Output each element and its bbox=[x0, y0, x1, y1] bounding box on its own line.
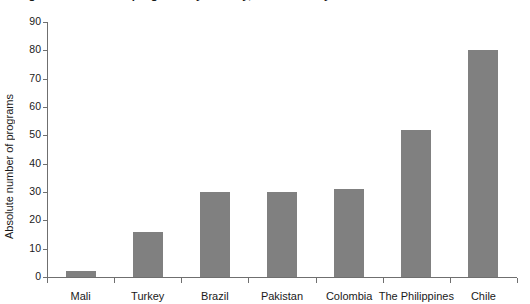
y-tick-label: 80 bbox=[29, 43, 41, 56]
bar-pakistan bbox=[267, 192, 297, 277]
x-axis-line bbox=[47, 277, 517, 278]
bars-layer bbox=[47, 22, 517, 277]
y-axis-title: Absolute number of programs bbox=[2, 72, 18, 262]
x-tick-mark bbox=[114, 278, 115, 283]
x-tick-label-colombia: Colombia bbox=[326, 290, 372, 303]
x-tick-label-mali: Mali bbox=[70, 290, 90, 303]
x-tick-mark bbox=[316, 278, 317, 283]
x-tick-label-the-philippines: The Philippines bbox=[379, 290, 454, 303]
x-tick-mark bbox=[248, 278, 249, 283]
plot-area: 0102030405060708090 MaliTurkeyBrazilPaki… bbox=[47, 22, 517, 277]
x-tick-label-pakistan: Pakistan bbox=[261, 290, 303, 303]
bar-chart-figure: Figure 3. Number of programs by country,… bbox=[0, 0, 530, 304]
y-tick-label: 50 bbox=[29, 128, 41, 141]
x-tick-label-chile: Chile bbox=[471, 290, 496, 303]
x-tick-mark bbox=[517, 278, 518, 283]
bar-chile bbox=[468, 50, 498, 277]
x-tick-label-turkey: Turkey bbox=[131, 290, 164, 303]
bar-colombia bbox=[334, 189, 364, 277]
bar-turkey bbox=[133, 232, 163, 277]
x-tick-mark bbox=[47, 278, 48, 283]
y-tick-label: 10 bbox=[29, 242, 41, 255]
x-tick-mark bbox=[450, 278, 451, 283]
y-tick-label: 30 bbox=[29, 185, 41, 198]
y-tick-label: 40 bbox=[29, 157, 41, 170]
y-tick-label: 70 bbox=[29, 72, 41, 85]
bar-the-philippines bbox=[401, 130, 431, 277]
figure-title: Figure 3. Number of programs by country,… bbox=[18, 0, 518, 1]
x-tick-mark bbox=[181, 278, 182, 283]
x-tick-label-brazil: Brazil bbox=[201, 290, 229, 303]
y-tick-label: 60 bbox=[29, 100, 41, 113]
bar-mali bbox=[66, 271, 96, 277]
y-tick-label: 90 bbox=[29, 15, 41, 28]
y-tick-label: 20 bbox=[29, 213, 41, 226]
y-tick-label: 0 bbox=[35, 270, 41, 283]
x-tick-mark bbox=[383, 278, 384, 283]
bar-brazil bbox=[200, 192, 230, 277]
